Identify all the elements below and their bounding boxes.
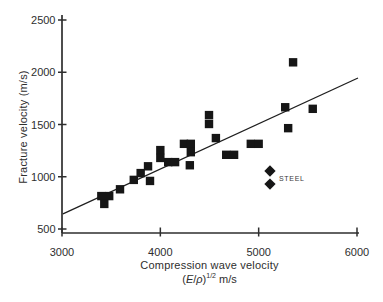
data-point-square: [289, 58, 297, 66]
data-point-square: [146, 177, 154, 185]
units-suffix: m/s: [216, 273, 237, 285]
data-point-square: [171, 158, 179, 166]
y-tick-label: 500: [37, 223, 55, 235]
data-point-diamond: [264, 165, 275, 176]
y-axis-title: Fracture velocity (m/s): [17, 70, 29, 183]
data-point-square: [187, 148, 195, 156]
data-point-square: [136, 169, 144, 177]
x-axis-title: Compression wave velocity: [62, 259, 357, 271]
data-point-square: [97, 192, 105, 200]
y-tick-label: 1500: [31, 119, 55, 131]
data-point-square: [105, 192, 113, 200]
data-point-square: [222, 151, 230, 159]
data-point-diamond: [264, 178, 275, 189]
x-tick-label: 3000: [50, 246, 74, 258]
x-tick-label: 5000: [246, 246, 270, 258]
chart-canvas: 30004000500060005001000150020002500STEEL: [0, 0, 383, 302]
data-point-square: [144, 162, 152, 170]
data-point-square: [284, 124, 292, 132]
x-tick-label: 4000: [148, 246, 172, 258]
y-tick-label: 2000: [31, 66, 55, 78]
data-point-square: [100, 200, 108, 208]
scatter-chart-figure: 30004000500060005001000150020002500STEEL…: [0, 0, 383, 302]
data-point-square: [205, 111, 213, 119]
data-point-square: [230, 151, 238, 159]
data-point-square: [187, 140, 195, 148]
x-axis-units: (E/ρ)1/2 m/s: [62, 273, 357, 285]
data-point-square: [281, 103, 289, 111]
data-point-square: [156, 154, 164, 162]
data-point-square: [116, 185, 124, 193]
data-point-square: [212, 134, 220, 142]
data-point-square: [205, 120, 213, 128]
steel-annotation: STEEL: [279, 175, 305, 182]
data-point-square: [309, 105, 317, 113]
data-point-square: [247, 140, 255, 148]
y-tick-label: 2500: [31, 14, 55, 26]
units-superscript: 1/2: [206, 272, 216, 279]
data-point-square: [186, 161, 194, 169]
data-point-square: [156, 146, 164, 154]
y-tick-label: 1000: [31, 171, 55, 183]
x-tick-label: 6000: [345, 246, 369, 258]
data-point-square: [254, 140, 262, 148]
